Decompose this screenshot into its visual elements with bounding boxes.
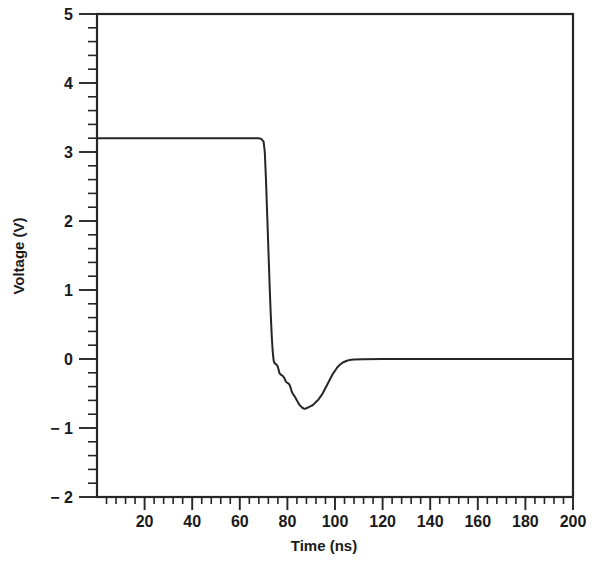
- y-tick-label: 0: [64, 351, 73, 368]
- y-axis-tick-labels: − 2− 1012345: [50, 6, 73, 506]
- y-tick-label: 1: [64, 282, 73, 299]
- x-tick-label: 100: [322, 513, 349, 530]
- x-tick-label: 60: [231, 513, 249, 530]
- x-tick-label: 180: [512, 513, 539, 530]
- x-tick-label: 20: [136, 513, 154, 530]
- y-axis-major-ticks: [79, 14, 97, 497]
- x-tick-label: 200: [560, 513, 587, 530]
- y-axis-minor-ticks: [88, 28, 97, 483]
- x-tick-label: 120: [369, 513, 396, 530]
- x-tick-label: 140: [417, 513, 444, 530]
- x-axis-major-ticks: [145, 497, 573, 510]
- x-axis-title: Time (ns): [291, 537, 357, 554]
- y-tick-label: 3: [64, 144, 73, 161]
- plot-frame: [97, 14, 573, 497]
- y-tick-label: 4: [64, 75, 73, 92]
- y-tick-label: − 2: [50, 489, 73, 506]
- x-tick-label: 80: [279, 513, 297, 530]
- y-axis-title: Voltage (V): [10, 217, 27, 294]
- chart-page: 20406080100120140160180200 − 2− 1012345 …: [0, 0, 596, 571]
- y-tick-label: 5: [64, 6, 73, 23]
- x-tick-label: 160: [464, 513, 491, 530]
- voltage-vs-time-chart: 20406080100120140160180200 − 2− 1012345 …: [0, 0, 596, 571]
- voltage-trace: [97, 138, 573, 408]
- y-tick-label: 2: [64, 213, 73, 230]
- y-tick-label: − 1: [50, 420, 73, 437]
- data-series-group: [97, 138, 573, 408]
- x-tick-label: 40: [183, 513, 201, 530]
- x-axis-tick-labels: 20406080100120140160180200: [136, 513, 587, 530]
